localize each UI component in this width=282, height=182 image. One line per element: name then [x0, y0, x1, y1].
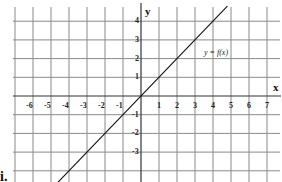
- x-tick-label: -6: [26, 102, 33, 110]
- y-tick-label: 1: [135, 73, 139, 81]
- x-tick-label: -1: [116, 102, 123, 110]
- y-tick-label: -1: [132, 111, 139, 119]
- y-tick-label: 4: [135, 17, 139, 25]
- axes: [13, 3, 281, 182]
- x-tick-label: -5: [44, 102, 51, 110]
- x-tick-label: 3: [193, 102, 197, 110]
- x-axis-label: x: [273, 82, 279, 93]
- x-tick-label: -3: [80, 102, 87, 110]
- part-label: i.: [0, 170, 7, 182]
- x-tick-label: 6: [247, 102, 251, 110]
- grid-lines: [13, 7, 280, 182]
- y-tick-label: 2: [135, 55, 139, 63]
- x-tick-label: 4: [211, 102, 215, 110]
- y-axis-label: y: [145, 6, 151, 17]
- y-tick-label: 3: [135, 36, 139, 44]
- chart-plot-area: [0, 0, 282, 182]
- x-tick-label: 2: [175, 102, 179, 110]
- y-tick-label: -2: [132, 129, 139, 137]
- x-tick-label: -2: [98, 102, 105, 110]
- x-tick-label: 7: [265, 102, 269, 110]
- y-tick-label: -3: [132, 148, 139, 156]
- function-label: y = f(x): [204, 49, 228, 57]
- x-tick-label: 1: [157, 102, 161, 110]
- x-tick-label: -4: [62, 102, 69, 110]
- x-tick-label: 5: [229, 102, 233, 110]
